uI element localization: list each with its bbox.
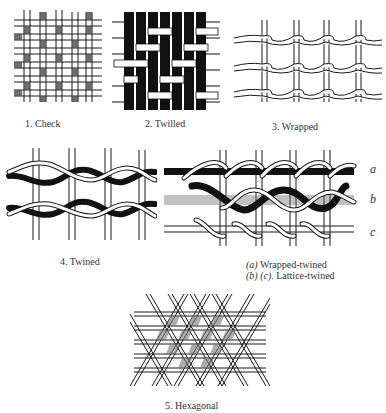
caption-hexagonal: 5. Hexagonal xyxy=(165,400,218,411)
hexagonal-weave-illustration xyxy=(130,292,270,388)
row-label-a: a xyxy=(370,162,376,177)
figure-wrapped xyxy=(232,18,384,104)
check-weave-illustration xyxy=(12,8,104,104)
caption-prefix-a: (a) xyxy=(246,259,258,270)
caption-lattice-twined: (b) (c). Lattice-twined xyxy=(246,270,335,281)
figure-check xyxy=(12,8,104,104)
caption-prefix-bc: (b) (c). xyxy=(246,270,274,281)
figure-twilled xyxy=(112,10,220,112)
caption-twilled: 2. Twilled xyxy=(145,118,185,129)
figure-hexagonal xyxy=(130,292,270,388)
caption-text-lattice-twined: Lattice-twined xyxy=(274,270,335,281)
caption-text-wrapped-twined: Wrapped-twined xyxy=(258,259,327,270)
twined-weave-illustration xyxy=(5,146,157,242)
caption-wrapped: 3. Wrapped xyxy=(272,121,318,132)
caption-wrapped-twined: (a) Wrapped-twined xyxy=(246,259,327,270)
row-label-b: b xyxy=(370,192,376,207)
row-label-c: c xyxy=(370,225,375,240)
wrapped-weave-illustration xyxy=(232,18,384,104)
twilled-weave-illustration xyxy=(112,10,220,112)
caption-twined: 4. Twined xyxy=(60,256,100,267)
figure-twined xyxy=(5,146,157,242)
caption-check: 1. Check xyxy=(25,118,61,129)
figure-wrapped-lattice-twined xyxy=(162,148,358,248)
wrapped-lattice-twined-illustration xyxy=(162,148,358,248)
